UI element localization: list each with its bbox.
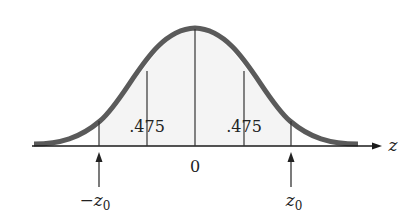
right-area-label: .475 [226, 117, 262, 136]
normal-curve-diagram: .475 .475 0 z −z0 z0 [0, 0, 411, 224]
right-marker-arrow-icon [288, 152, 295, 162]
right-marker-label: z0 [285, 190, 303, 213]
center-label: 0 [190, 157, 200, 176]
axis-label: z [388, 135, 399, 155]
left-marker-label: −z0 [80, 190, 111, 213]
left-area-label: .475 [129, 117, 165, 136]
axis-arrow-icon [372, 143, 382, 150]
left-marker-arrow-icon [96, 152, 103, 162]
